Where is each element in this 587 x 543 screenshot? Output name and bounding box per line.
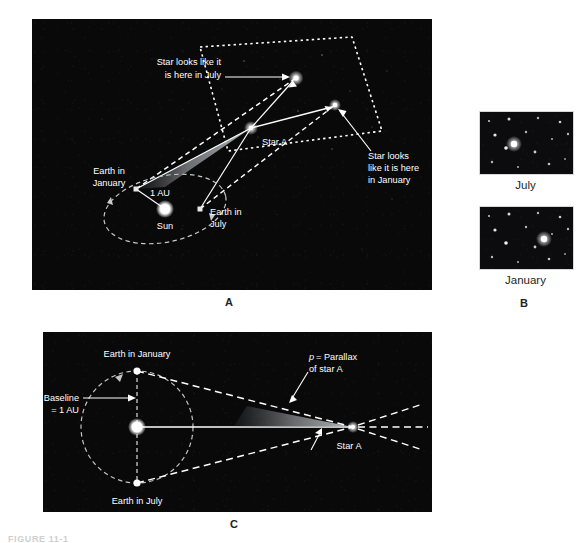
panel-c-svg: Earth in January Earth in July Baseline …: [43, 332, 432, 512]
label-parallax-line1: = Parallax: [316, 352, 358, 362]
parallax-callout-arrowhead-upper: [289, 395, 297, 403]
star-a-marker-c: [351, 425, 355, 429]
label-earth-july-line1: Earth in: [210, 207, 242, 217]
label-star-january-line2: like it is here: [368, 163, 419, 173]
continuation-ray-lower: [358, 429, 423, 450]
parallax-callout-arrowhead-lower: [315, 428, 322, 435]
january-starfield-image: [479, 206, 574, 270]
july-target-star: [511, 141, 517, 147]
sun-marker-c: [132, 422, 142, 432]
label-earth-january-c: Earth in January: [104, 349, 171, 359]
january-target-star: [541, 236, 547, 242]
earth-july-marker: [198, 207, 203, 212]
label-baseline-line1: Baseline: [44, 393, 79, 403]
sightline-july-c: [137, 427, 353, 483]
label-one-au: 1 AU: [150, 188, 170, 198]
orbit-direction-arrow-c: [115, 374, 123, 382]
sun-marker: [160, 204, 169, 213]
callout-line-january: [340, 111, 371, 151]
label-star-a-c: Star A: [336, 441, 362, 451]
figure-caption-fragment: FIGURE 11-1: [8, 534, 69, 543]
earth-july-marker-c: [133, 479, 140, 486]
panel-c-letter: C: [230, 518, 238, 530]
label-star-january-line3: in January: [368, 175, 411, 185]
panel-b-letter: B: [520, 297, 528, 309]
label-star-january-line1: Star looks: [368, 151, 409, 161]
sightline-january: [136, 78, 296, 189]
continuation-ray-upper: [358, 404, 423, 425]
label-earth-january-line2: January: [93, 178, 126, 188]
label-parallax-line2: of star A: [309, 364, 344, 374]
label-star-july-line2: is here in July: [165, 70, 222, 80]
label-star-a: Star A: [262, 137, 288, 147]
label-baseline-line2: = 1 AU: [51, 405, 79, 415]
panel-c-geometry-diagram: Earth in January Earth in July Baseline …: [43, 332, 432, 512]
baseline-arrowhead: [128, 395, 136, 402]
ray-january-to-star: [136, 128, 251, 189]
panel-a-orbit-diagram: Star looks like it is here in July Star …: [32, 19, 432, 290]
background-stars: [102, 54, 393, 249]
sky-plane-parallelogram: [200, 37, 382, 151]
label-earth-july-line2: July: [210, 219, 227, 229]
star-a-marker: [249, 126, 253, 130]
apparent-star-july: [293, 75, 298, 80]
earth-january-marker: [134, 187, 139, 192]
label-sun: Sun: [157, 221, 173, 231]
july-starfield-svg: [480, 112, 573, 174]
january-starfield-svg: [480, 207, 573, 269]
panel-a-letter: A: [225, 296, 233, 308]
parallax-callout-upper: [291, 372, 308, 400]
parallax-figure: Star looks like it is here in July Star …: [0, 0, 587, 543]
label-parallax-symbol: p: [308, 352, 314, 362]
callout-arrowhead-january: [338, 109, 347, 117]
earth-january-marker-c: [133, 367, 140, 374]
july-starfield-image: [479, 111, 574, 175]
january-image-caption: January: [479, 274, 572, 286]
label-star-july-line1: Star looks like it: [157, 57, 222, 67]
apparent-star-january: [333, 103, 337, 107]
july-image-caption: July: [479, 179, 572, 191]
label-earth-july-c: Earth in July: [112, 496, 163, 506]
label-earth-january-line1: Earth in: [93, 166, 125, 176]
parallax-wedge-c: [233, 406, 353, 427]
panel-a-svg: Star looks like it is here in July Star …: [32, 19, 432, 290]
